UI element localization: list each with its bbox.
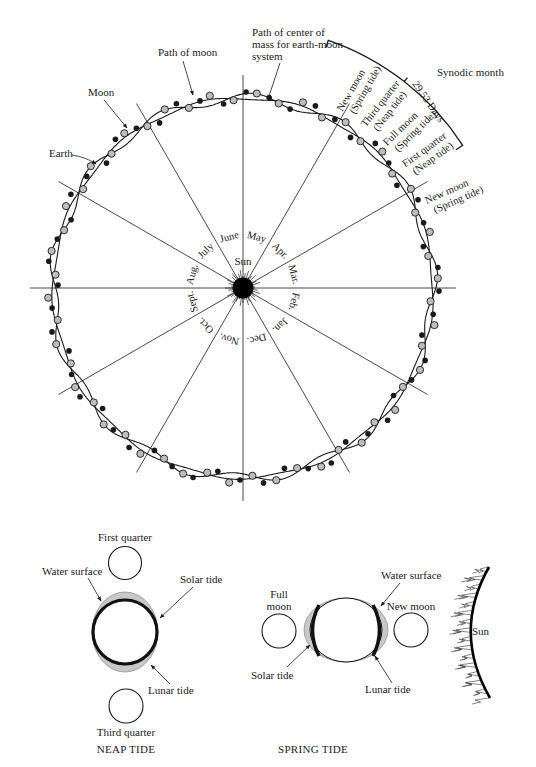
moon-position-dot: [386, 160, 392, 166]
spring-tide-caption: SPRING TIDE: [278, 743, 348, 755]
first-quarter-moon-icon: [109, 547, 142, 580]
spring-tide-panel: Full moon Water surface New moon Solar t…: [251, 567, 490, 755]
moon-label: Moon: [88, 86, 115, 98]
moon-position-dot: [66, 348, 72, 354]
center-of-mass-label-line3: system: [252, 50, 283, 62]
earth-position-dot: [416, 366, 423, 373]
moon-position-dot: [49, 305, 55, 311]
month-label: Mar.: [286, 263, 302, 285]
moon-position-dot: [126, 445, 132, 451]
neap-solar-tide-arrow: [160, 587, 193, 618]
earth-position-dot: [161, 106, 168, 113]
moon-position-dot: [394, 183, 400, 189]
earth-position-dot: [61, 227, 68, 234]
earth-position-dot: [427, 298, 434, 305]
spring-earth-icon: [310, 598, 382, 662]
moon-position-dot: [391, 393, 397, 399]
moon-position-dot: [68, 191, 74, 197]
full-moon-icon: [262, 614, 296, 648]
earth-position-dot: [358, 439, 365, 446]
synodic-phase-label: New moon(Spring tide): [423, 172, 486, 217]
month-label: Dec.: [246, 331, 268, 347]
moon-position-dot: [243, 89, 249, 95]
earth-position-dot: [335, 446, 342, 453]
earth-position-dot: [253, 90, 260, 97]
full-moon-label-line1: Full: [270, 588, 288, 600]
earth-position-dot: [379, 148, 386, 155]
earth-position-dot: [62, 203, 69, 210]
earth-position-dot: [72, 384, 79, 391]
earth-position-dot: [90, 399, 97, 406]
moon-position-dot: [55, 236, 61, 242]
earth-position-dot: [399, 383, 406, 390]
moon-position-dot: [152, 448, 158, 454]
month-label: Oct.: [195, 315, 215, 335]
earth-position-dot: [206, 92, 213, 99]
moon-position-dot: [329, 460, 335, 466]
moon-arrow: [104, 100, 127, 128]
month-label: Feb.: [287, 291, 302, 312]
moon-position-dot: [100, 406, 106, 412]
month-label: Aug.: [184, 263, 200, 286]
earth-position-dot: [273, 477, 280, 484]
moon-position-dot: [134, 126, 140, 132]
moon-position-dot: [409, 377, 415, 383]
center-of-mass-label-line2: mass for earth-moon: [252, 38, 344, 50]
earth-position-dot: [431, 322, 438, 329]
moon-position-dot: [419, 332, 425, 338]
earth-position-dot: [87, 163, 94, 170]
earth-position-dot: [357, 138, 364, 145]
moon-position-dot: [332, 117, 338, 123]
moon-position-dot: [365, 431, 371, 437]
earth-position-dot: [180, 470, 187, 477]
earth-label: Earth: [49, 147, 73, 159]
moon-position-dot: [430, 311, 436, 317]
moon-position-dot: [415, 197, 421, 203]
earth-position-dot: [318, 463, 325, 470]
earth-position-dot: [318, 114, 325, 121]
spring-sun-label: Sun: [472, 625, 490, 637]
moon-position-dot: [343, 439, 349, 445]
moon-position-dot: [282, 466, 288, 472]
moon-position-dot: [287, 106, 293, 112]
moon-position-dot: [157, 120, 163, 126]
moon-position-dot: [69, 372, 75, 378]
earth-position-dot: [389, 170, 396, 177]
path-of-moon-arrow: [183, 61, 193, 95]
earth-position-dot: [275, 100, 282, 107]
moon-position-dot: [421, 220, 427, 226]
sun-label: Sun: [234, 255, 252, 267]
moon-position-dot: [237, 477, 243, 483]
first-quarter-label: First quarter: [98, 531, 152, 543]
third-quarter-label: Third quarter: [97, 726, 156, 738]
earth-position-dot: [53, 341, 60, 348]
moon-position-dot: [113, 137, 119, 143]
spring-lunar-tide-arrow: [375, 656, 392, 683]
third-quarter-moon-icon: [109, 689, 143, 723]
new-moon-icon: [394, 613, 428, 647]
earth-position-dot: [54, 316, 61, 323]
synodic-month-label: Synodic month: [437, 66, 504, 78]
neap-tide-panel: First quarter Water surface Solar tide L…: [42, 531, 223, 755]
earth-position-dot: [412, 209, 419, 216]
neap-lunar-tide-arrow: [151, 665, 170, 684]
moon-position-dot: [422, 358, 428, 364]
moon-position-dot: [305, 466, 311, 472]
month-label: Nov.: [218, 331, 240, 347]
moon-position-dot: [197, 98, 203, 104]
tide-diagram: Mar.Apr.MayJuneJulyAug.Sept.Oct.Nov.Dec.…: [0, 0, 536, 767]
neap-water-surface-label: Water surface: [42, 565, 103, 577]
moon-position-dot: [111, 427, 117, 433]
new-moon-label: New moon: [387, 600, 436, 612]
earth-position-dot: [161, 455, 168, 462]
moon-position-dot: [190, 475, 196, 481]
center-of-mass-label-line1: Path of center of: [252, 26, 325, 38]
neap-water-surface-arrow: [88, 578, 101, 601]
moon-position-dot: [435, 265, 441, 271]
moon-position-dot: [77, 394, 83, 400]
moon-position-dot: [84, 174, 90, 180]
earth-position-dot: [204, 469, 211, 476]
earth-position-dot: [249, 472, 256, 479]
month-label: July: [195, 240, 216, 261]
spring-water-surface-label: Water surface: [381, 569, 442, 581]
